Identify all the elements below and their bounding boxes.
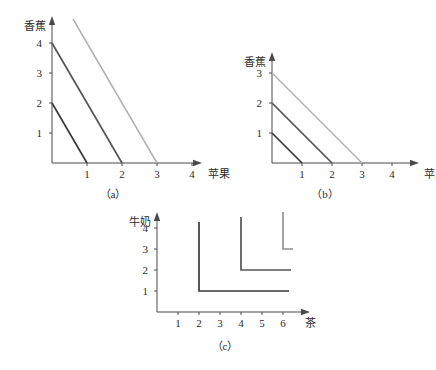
x-axis-arrow-icon — [301, 309, 310, 315]
panel-a-axes — [49, 16, 202, 166]
x-tick-label-3: 3 — [359, 168, 365, 180]
y-tick-label-1: 1 — [257, 127, 263, 139]
y-tick-label-3: 3 — [37, 67, 43, 79]
y-axis-arrow-icon — [49, 16, 55, 25]
indifference-curve-c-3 — [283, 212, 293, 249]
y-axis-label: 香蕉 — [24, 20, 46, 33]
figure-root: 1 2 3 4 1 2 3 4 香蕉 苹果 （a） — [0, 0, 436, 370]
y-axis-arrow-icon — [154, 212, 160, 221]
indifference-curve-b-2 — [272, 103, 332, 163]
y-axis-label: 香蕉 — [244, 56, 266, 69]
y-axis-arrow-icon — [269, 52, 275, 61]
x-tick-label-1: 1 — [299, 168, 305, 180]
indifference-curve-b-1 — [272, 133, 302, 163]
y-tick-label-4: 4 — [37, 37, 43, 49]
x-axis-arrow-icon — [410, 160, 419, 166]
indifference-curve-b-3 — [272, 73, 362, 163]
panel-a-plot: 1 2 3 4 1 2 3 4 香蕉 苹果 （a） — [0, 0, 220, 205]
x-tick-label-1: 1 — [84, 168, 90, 180]
x-tick-label-3: 3 — [217, 317, 223, 329]
panel-b-axes — [269, 52, 419, 166]
x-tick-label-4: 4 — [389, 168, 395, 180]
indifference-curve-c-1 — [199, 222, 289, 291]
panel-caption: （c） — [212, 340, 239, 352]
panel-c: 1 2 3 4 1 2 3 4 5 6 牛奶 茶 （c） — [120, 200, 330, 370]
x-axis-label: 苹果 — [424, 167, 436, 181]
indifference-curve-a-2 — [52, 43, 122, 163]
y-tick-label-1: 1 — [143, 285, 149, 297]
y-tick-label-3: 3 — [143, 243, 149, 255]
x-tick-label-1: 1 — [175, 317, 181, 329]
x-tick-label-2: 2 — [329, 168, 335, 180]
x-axis-label: 茶 — [305, 317, 316, 330]
indifference-curve-a-1 — [52, 103, 87, 163]
x-tick-label-3: 3 — [154, 168, 160, 180]
indifference-curve-a-3 — [73, 19, 157, 163]
panel-caption: （a） — [100, 188, 127, 200]
y-tick-label-2: 2 — [257, 97, 263, 109]
panel-c-axes — [154, 212, 310, 315]
y-axis-label: 牛奶 — [129, 215, 151, 229]
x-tick-label-2: 2 — [196, 317, 202, 329]
y-tick-label-2: 2 — [143, 264, 149, 276]
x-axis-arrow-icon — [193, 160, 202, 166]
y-tick-label-2: 2 — [37, 97, 43, 109]
x-tick-label-5: 5 — [259, 317, 265, 329]
x-tick-label-4: 4 — [238, 317, 244, 329]
y-tick-label-1: 1 — [37, 127, 43, 139]
panel-b-plot: 1 2 3 1 2 3 4 香蕉 苹果 （b） — [215, 30, 436, 205]
x-tick-label-6: 6 — [280, 317, 286, 329]
x-tick-label-4: 4 — [189, 168, 195, 180]
panel-a: 1 2 3 4 1 2 3 4 香蕉 苹果 （a） — [0, 0, 220, 205]
x-tick-label-2: 2 — [119, 168, 125, 180]
panel-caption: （b） — [311, 188, 339, 200]
panel-c-plot: 1 2 3 4 1 2 3 4 5 6 牛奶 茶 （c） — [120, 200, 330, 370]
panel-b: 1 2 3 1 2 3 4 香蕉 苹果 （b） — [215, 30, 436, 205]
